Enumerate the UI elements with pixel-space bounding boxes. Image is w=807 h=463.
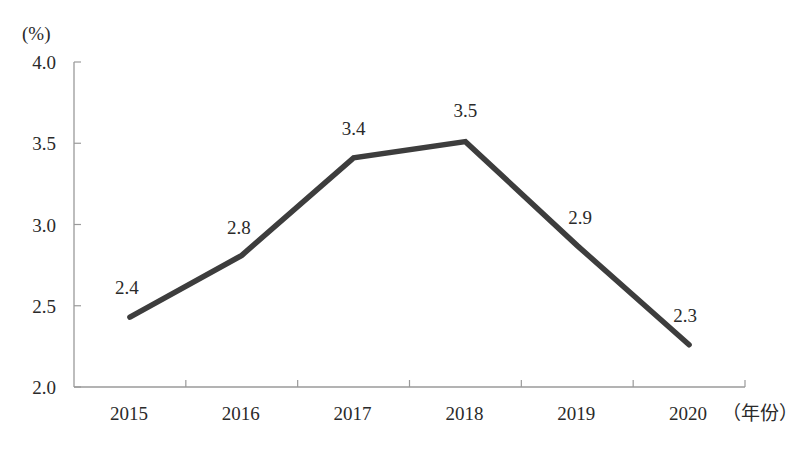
x-axis-tick-labels: 201520162017201820192020 xyxy=(110,403,707,424)
x-tick-label: 2016 xyxy=(222,403,260,424)
data-label: 2.3 xyxy=(673,305,697,326)
x-tick-label: 2017 xyxy=(334,403,372,424)
data-label: 2.4 xyxy=(115,277,139,298)
x-axis-unit-label: （年份） xyxy=(722,403,798,424)
y-tick-label: 3.0 xyxy=(32,215,56,236)
x-tick-label: 2015 xyxy=(110,403,148,424)
line-chart: (%) 2.02.53.03.54.0 20152016201720182019… xyxy=(0,0,807,463)
data-label: 3.4 xyxy=(342,118,366,139)
data-label: 2.8 xyxy=(227,217,251,238)
y-tick-label: 2.5 xyxy=(32,296,56,317)
chart-canvas: (%) 2.02.53.03.54.0 20152016201720182019… xyxy=(0,0,807,463)
y-axis-unit-label: (%) xyxy=(22,23,50,45)
x-tick-label: 2018 xyxy=(445,403,483,424)
x-tick-label: 2020 xyxy=(669,403,707,424)
data-label: 2.9 xyxy=(568,207,592,228)
y-tick-label: 4.0 xyxy=(32,52,56,73)
x-axis-ticks xyxy=(186,380,745,387)
y-axis-ticks xyxy=(74,62,81,387)
y-axis-tick-labels: 2.02.53.03.54.0 xyxy=(32,52,56,398)
data-labels: 2.42.83.43.52.92.3 xyxy=(115,100,697,326)
series-line xyxy=(130,142,689,345)
x-tick-label: 2019 xyxy=(557,403,595,424)
data-label: 3.5 xyxy=(454,100,478,121)
axes xyxy=(74,62,745,387)
y-tick-label: 2.0 xyxy=(32,377,56,398)
y-tick-label: 3.5 xyxy=(32,133,56,154)
